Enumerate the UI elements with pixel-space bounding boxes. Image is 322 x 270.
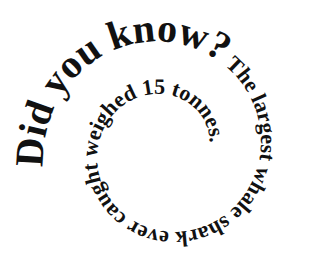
fact-text: The largest whale shark ever caught weig… xyxy=(77,46,281,252)
did-you-know-spiral-graphic: Did you know? The largest whale shark ev… xyxy=(0,0,322,270)
spiral-svg: Did you know? The largest whale shark ev… xyxy=(0,0,322,270)
spiral-text: Did you know? The largest whale shark ev… xyxy=(6,5,281,252)
